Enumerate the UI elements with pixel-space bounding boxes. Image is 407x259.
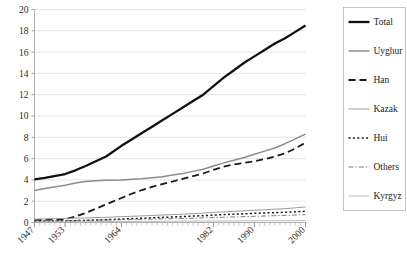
- legend-label-others: Others: [374, 162, 400, 172]
- legend-label-han: Han: [374, 75, 390, 85]
- y-axis-tick-label: 8: [24, 133, 29, 143]
- line-chart-figure: 02468101214161820 1947195319641982199020…: [0, 0, 407, 259]
- y-axis-tick-label: 2: [24, 197, 29, 207]
- legend-label-kyrgyz: Kyrgyz: [374, 191, 402, 201]
- legend-label-total: Total: [374, 17, 394, 27]
- x-minor-ticks-group: [35, 223, 306, 226]
- y-tick-labels-group: 02468101214161820: [19, 5, 29, 228]
- y-axis-tick-label: 16: [19, 48, 29, 58]
- x-axis-tick-label: 1947: [15, 225, 36, 246]
- y-axis-tick-label: 14: [19, 69, 29, 79]
- series-line-uyghur: [35, 134, 306, 190]
- x-axis-tick-label: 1982: [194, 225, 215, 246]
- y-axis-tick-label: 10: [19, 111, 29, 121]
- y-axis-tick-label: 18: [19, 26, 29, 36]
- series-line-others: [35, 215, 306, 221]
- legend: TotalUyghurHanKazakHuiOthersKyrgyz: [344, 8, 406, 211]
- legend-label-kazak: Kazak: [374, 104, 399, 114]
- chart-canvas: 02468101214161820 1947195319641982199020…: [0, 0, 407, 259]
- y-tick-marks-group: [32, 10, 35, 223]
- data-series-group: [35, 25, 306, 221]
- x-axis-tick-label: 1964: [102, 225, 123, 246]
- y-axis-tick-label: 12: [19, 90, 29, 100]
- legend-label-uyghur: Uyghur: [374, 46, 404, 56]
- legend-label-hui: Hui: [374, 133, 389, 143]
- series-line-han: [35, 143, 306, 221]
- gridlines-group: [35, 10, 306, 202]
- y-axis-tick-label: 20: [19, 5, 29, 15]
- x-tick-marks-group: [35, 223, 306, 228]
- y-axis-tick-label: 6: [24, 154, 29, 164]
- x-tick-labels-group: 194719531964198219902000: [15, 225, 307, 246]
- x-axis-tick-label: 2000: [286, 225, 307, 246]
- series-line-total: [35, 25, 306, 179]
- x-axis-tick-label: 1990: [235, 225, 256, 246]
- x-axis-tick-label: 1953: [46, 225, 67, 246]
- y-axis-tick-label: 4: [24, 175, 29, 185]
